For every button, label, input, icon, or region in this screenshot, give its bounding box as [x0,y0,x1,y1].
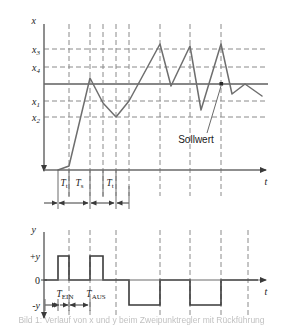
setpoint-marker-dot [220,82,224,86]
figure-container: x t x3 x4 x1 x2 Sollwert TTtt Ts [0,0,283,329]
upper-x-axis-label: t [265,176,268,187]
tick-label-minus-y: -y [32,300,40,311]
sollwert-annotation-label: Sollwert [178,134,214,145]
two-position-controller-diagram: x t x3 x4 x1 x2 Sollwert TTtt Ts [0,0,283,329]
lower-x-axis-label: t [265,286,268,297]
figure-caption: Bild 1: Verlauf von x und y beim Zweipun… [0,311,283,329]
tick-label-zero: 0 [35,275,40,286]
upper-y-axis-label: x [31,15,37,26]
tick-label-plus-y: +y [30,251,41,262]
lower-y-axis-label: y [31,224,37,235]
